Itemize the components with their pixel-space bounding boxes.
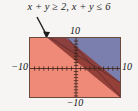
axis-label-bottom: −10 [29, 97, 121, 108]
figure-root: x + y ≥ 2, x + y ≤ 6 [0, 0, 138, 111]
axis-label-left: −10 [2, 61, 28, 72]
figure-caption: x + y ≥ 2, x + y ≤ 6 [0, 1, 138, 12]
axis-label-top: 10 [29, 25, 121, 36]
axis-label-right: 10 [122, 61, 138, 72]
plot-area [29, 37, 121, 98]
inequality-graph [30, 38, 121, 98]
